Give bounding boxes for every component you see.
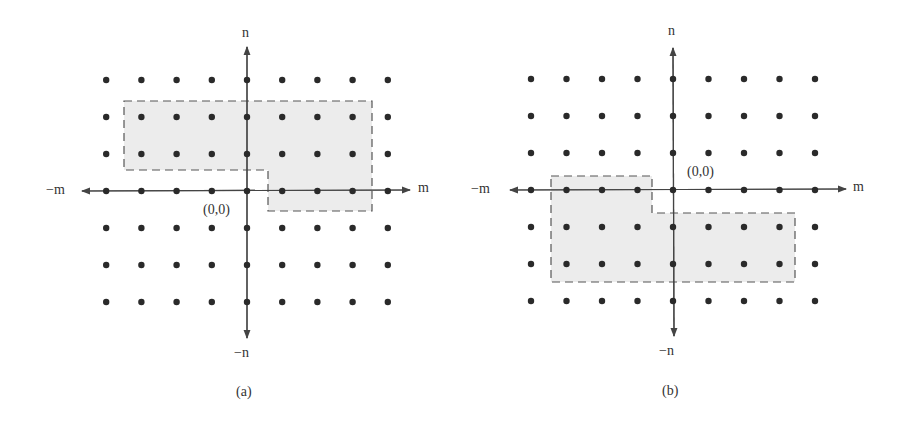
lattice-point [103,188,109,194]
lattice-point [244,77,250,83]
panel-a [82,47,410,338]
lattice-point [670,150,676,156]
lattice-point [670,113,676,119]
lattice-point [741,224,747,230]
lattice-point [279,151,285,157]
lattice-point [209,114,215,120]
diagram-canvas [0,0,904,423]
lattice-point [812,224,818,230]
lattice-point [670,261,676,267]
lattice-point [173,77,179,83]
lattice-point [599,76,605,82]
lattice-point [741,261,747,267]
lattice-point [634,76,640,82]
lattice-point [705,187,711,193]
lattice-point [812,113,818,119]
axis-label-neg-n-b: −n [659,344,674,358]
lattice-point [705,261,711,267]
lattice-point [563,187,569,193]
lattice-point [528,150,534,156]
lattice-point [209,151,215,157]
lattice-point [138,151,144,157]
lattice-point [314,114,320,120]
lattice-point [349,77,355,83]
lattice-point [173,114,179,120]
lattice-point [528,113,534,119]
lattice-point [634,298,640,304]
lattice-point [385,225,391,231]
lattice-point [279,299,285,305]
lattice-point [209,299,215,305]
lattice-point [776,76,782,82]
lattice-point [812,187,818,193]
lattice-point [279,225,285,231]
axis-label-n-a: n [242,26,249,40]
lattice-point [741,113,747,119]
lattice-point [634,261,640,267]
lattice-point [103,114,109,120]
lattice-point [209,225,215,231]
lattice-point [776,298,782,304]
lattice-point [138,188,144,194]
origin-label-a: (0,0) [203,203,230,217]
lattice-point [670,187,676,193]
lattice-point [138,114,144,120]
panel-b [510,48,846,336]
caption-b: (b) [662,384,678,398]
lattice-point [705,298,711,304]
lattice-point [138,262,144,268]
lattice-point [599,113,605,119]
lattice-point [103,262,109,268]
lattice-point [173,188,179,194]
lattice-point [741,187,747,193]
lattice-point [173,299,179,305]
lattice-point [279,77,285,83]
lattice-point [244,151,250,157]
axis-label-neg-m-a: −m [46,183,65,197]
lattice-point [173,262,179,268]
lattice-point [314,188,320,194]
lattice-point [634,150,640,156]
lattice-point [528,298,534,304]
lattice-point [314,299,320,305]
axis-label-m-a: m [418,181,429,195]
lattice-point [599,261,605,267]
lattice-point [314,225,320,231]
lattice-point [741,76,747,82]
lattice-point [741,150,747,156]
lattice-point [705,224,711,230]
lattice-point [528,224,534,230]
lattice-point [279,114,285,120]
lattice-point [209,262,215,268]
lattice-point [244,262,250,268]
lattice-point [563,150,569,156]
lattice-point [741,298,747,304]
lattice-point [776,150,782,156]
lattice-point [314,262,320,268]
caption-a: (a) [236,385,252,399]
origin-label-b: (0,0) [687,165,714,179]
lattice-point [634,224,640,230]
lattice-point [599,298,605,304]
lattice-point [138,225,144,231]
lattice-point [244,299,250,305]
lattice-point [563,224,569,230]
lattice-point [103,77,109,83]
lattice-point [349,225,355,231]
lattice-point [103,225,109,231]
lattice-point [705,76,711,82]
lattice-point [812,298,818,304]
lattice-point [705,113,711,119]
lattice-point [209,77,215,83]
lattice-point [173,225,179,231]
lattice-point [103,299,109,305]
lattice-point [385,262,391,268]
lattice-point [103,151,109,157]
lattice-point [776,224,782,230]
lattice-point [776,113,782,119]
lattice-point [563,76,569,82]
lattice-point [812,76,818,82]
lattice-point [634,187,640,193]
lattice-point [279,188,285,194]
axis-label-neg-n-a: −n [234,346,249,360]
